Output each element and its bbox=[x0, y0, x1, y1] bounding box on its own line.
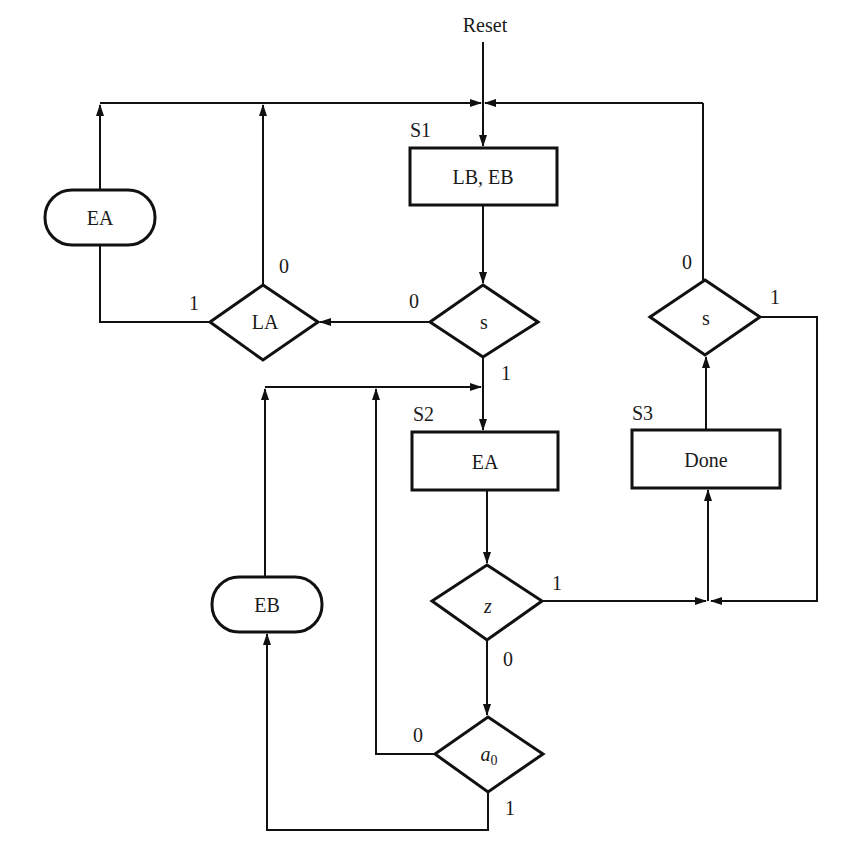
asm-chart: Reset S1 LB, EB S2 EA S3 Done s 0 1 LA 0… bbox=[0, 0, 857, 866]
decision-a0-sub: 0 bbox=[491, 753, 498, 768]
decision-z-branch-1: 1 bbox=[552, 573, 562, 593]
decision-s-top-branch-0: 0 bbox=[409, 291, 419, 311]
decision-s-top-label: s bbox=[480, 312, 488, 332]
state-output-s2: EA bbox=[472, 452, 499, 472]
decision-s-right-branch-0: 0 bbox=[682, 252, 692, 272]
state-name-s3: S3 bbox=[632, 403, 653, 423]
reset-label: Reset bbox=[463, 15, 507, 35]
decision-s-top-branch-1: 1 bbox=[501, 363, 511, 383]
decision-s-right-label: s bbox=[702, 308, 710, 328]
state-name-s1: S1 bbox=[410, 120, 431, 140]
decision-z-label: z bbox=[484, 596, 492, 616]
state-name-s2: S2 bbox=[413, 404, 434, 424]
decision-a0-label: a0 bbox=[481, 744, 498, 768]
cond-output-ea-label: EA bbox=[87, 208, 114, 228]
state-output-s3: Done bbox=[684, 450, 727, 470]
cond-output-eb-label: EB bbox=[254, 595, 280, 615]
decision-la-label: LA bbox=[252, 312, 279, 332]
decision-a0-base: a bbox=[481, 743, 491, 765]
decision-la-branch-0: 0 bbox=[279, 256, 289, 276]
decision-z-branch-0: 0 bbox=[503, 649, 513, 669]
decision-la-branch-1: 1 bbox=[189, 293, 199, 313]
decision-s-right-branch-1: 1 bbox=[770, 287, 780, 307]
state-output-s1: LB, EB bbox=[452, 167, 513, 187]
a01-to-eb bbox=[267, 645, 488, 830]
decision-a0-branch-0: 0 bbox=[413, 725, 423, 745]
decision-a0-branch-1: 1 bbox=[505, 798, 515, 818]
